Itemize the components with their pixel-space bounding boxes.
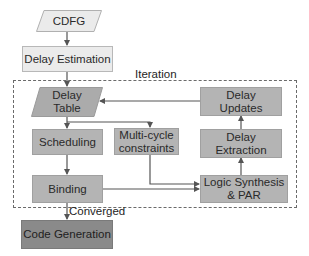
iteration-label: Iteration xyxy=(135,68,177,80)
converged-label: Converged xyxy=(69,205,125,217)
node-delay-updates: DelayUpdates xyxy=(200,87,282,116)
node-delay-updates-line1: Delay xyxy=(226,89,255,101)
node-logic-synthesis-par: Logic Synthesis& PAR xyxy=(200,175,288,203)
node-binding: Binding xyxy=(32,175,103,203)
node-logic-synthesis-line2: & PAR xyxy=(227,189,261,201)
flow-diagram: Iteration CDFG xyxy=(0,0,309,256)
node-cdfg-label: CDFG xyxy=(36,10,102,32)
node-delay-updates-line2: Updates xyxy=(220,102,263,114)
node-delay-extraction-line2: Extraction xyxy=(215,144,266,156)
node-delay-extraction: DelayExtraction xyxy=(200,129,282,158)
node-delay-table: DelayTable xyxy=(31,87,103,117)
node-code-generation: Code Generation xyxy=(21,220,113,249)
node-delay-table-line2: Table xyxy=(53,102,81,114)
node-delay-estimation: Delay Estimation xyxy=(22,46,113,72)
node-delay-extraction-line1: Delay xyxy=(226,131,255,143)
node-delay-table-label: DelayTable xyxy=(31,87,103,117)
node-logic-synthesis-line1: Logic Synthesis xyxy=(204,176,285,188)
node-delay-table-line1: Delay xyxy=(52,89,81,101)
node-cdfg: CDFG xyxy=(36,10,102,32)
node-multicycle-constraints: Multi-cycleconstraints xyxy=(114,128,179,155)
node-multicycle-line2: constraints xyxy=(119,142,175,154)
node-multicycle-line1: Multi-cycle xyxy=(119,129,173,141)
node-scheduling: Scheduling xyxy=(32,129,103,155)
